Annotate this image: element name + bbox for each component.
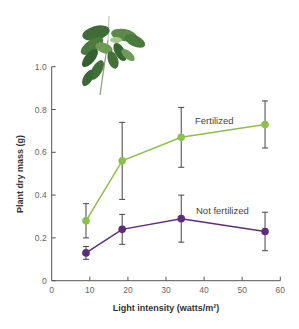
y-axis-title: Plant dry mass (g)	[15, 135, 25, 213]
y-tick-label: 0.8	[35, 105, 47, 115]
data-point	[82, 249, 90, 257]
series-line	[86, 219, 265, 253]
y-tick-label: 0.4	[35, 190, 47, 200]
series-label-fertilized: Fertilized	[195, 115, 234, 126]
data-point	[177, 215, 185, 223]
plant-illustration-icon	[78, 16, 147, 95]
series-fertilized	[82, 101, 269, 238]
axes: 00.20.40.60.81.00102030405060	[35, 62, 285, 295]
y-tick-label: 0	[42, 276, 47, 286]
data-point	[261, 228, 269, 236]
x-tick-label: 50	[237, 285, 247, 295]
y-tick-label: 0.2	[35, 233, 47, 243]
x-axis-title: Light intensity (watts/m²)	[113, 303, 220, 313]
x-tick-label: 30	[161, 285, 171, 295]
line-chart: 00.20.40.60.81.00102030405060 Fertilized…	[0, 0, 299, 329]
x-tick-label: 10	[85, 285, 95, 295]
data-point	[118, 157, 126, 165]
x-tick-label: 0	[49, 285, 54, 295]
y-tick-label: 0.6	[35, 147, 47, 157]
data-series	[82, 101, 269, 259]
y-tick-label: 1.0	[35, 62, 47, 72]
x-tick-label: 60	[276, 285, 286, 295]
x-tick-label: 20	[123, 285, 133, 295]
data-point	[261, 121, 269, 129]
data-point	[118, 226, 126, 234]
data-point	[82, 217, 90, 225]
data-point	[177, 134, 185, 142]
x-tick-label: 40	[199, 285, 209, 295]
series-label-not-fertilized: Not fertilized	[196, 205, 249, 216]
